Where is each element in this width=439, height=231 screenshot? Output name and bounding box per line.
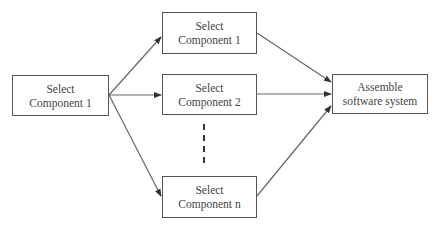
node-label-line1: Assemble [357, 80, 402, 94]
node-label-line1: Select [46, 82, 74, 96]
node-right-assemble-system: Assemble software system [332, 74, 428, 114]
arrow-top-to-right [257, 33, 331, 82]
node-label-line2: Component 2 [178, 95, 240, 109]
node-label-line2: Component 1 [29, 96, 91, 110]
node-top-select-component: Select Component 1 [162, 12, 257, 54]
node-bottom-select-component: Select Component n [162, 176, 257, 218]
node-label-line2: Component n [178, 197, 240, 211]
arrow-bottom-to-right [257, 106, 331, 196]
node-label-line1: Select [195, 81, 223, 95]
node-middle-select-component: Select Component 2 [162, 74, 257, 115]
node-label-line1: Select [195, 19, 223, 33]
arrow-left-to-bottom [109, 95, 161, 196]
node-label-line2: Component 1 [178, 33, 240, 47]
arrow-left-to-top [109, 37, 161, 95]
node-label-line2: software system [343, 94, 417, 108]
node-label-line1: Select [195, 183, 223, 197]
node-left-select-component: Select Component 1 [12, 75, 109, 116]
